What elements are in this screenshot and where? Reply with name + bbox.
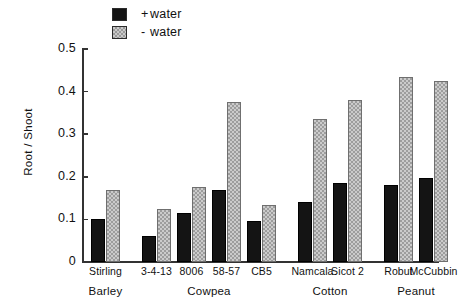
- legend-swatch-minus-water-icon: [112, 26, 127, 39]
- bar-minus-water: [192, 187, 206, 262]
- bar-plus-water: [177, 213, 191, 262]
- legend-label-plus-water: +water: [141, 7, 182, 21]
- legend-text-plus-water: water: [150, 7, 182, 21]
- legend-swatch-plus-water-icon: [112, 8, 127, 21]
- bars-container: [83, 49, 439, 262]
- y-axis-tick-labels: 0.50.40.30.20.10: [38, 0, 76, 305]
- x-axis-group-label: Cowpea: [187, 285, 230, 297]
- bar-plus-water: [333, 183, 347, 262]
- y-axis-tick-label: 0.3: [42, 126, 76, 140]
- y-axis-tick-label: 0.4: [42, 84, 76, 98]
- x-axis-group-labels: BarleyCowpeaCottonPeanut: [0, 285, 448, 301]
- legend-text-minus-water: water: [150, 25, 182, 39]
- x-axis-group-label: Peanut: [397, 285, 435, 297]
- bar-minus-water: [262, 205, 276, 263]
- legend-sign-plus: +: [141, 7, 150, 21]
- bar-plus-water: [91, 219, 105, 262]
- x-axis-group-label: Cotton: [312, 285, 347, 297]
- bar-plus-water: [212, 190, 226, 262]
- legend-entry-plus-water: +water: [112, 6, 262, 22]
- x-axis-category-label: 58-57: [213, 265, 240, 277]
- y-axis-tick-label: 0.2: [42, 169, 76, 183]
- bar-plus-water: [298, 202, 312, 262]
- y-axis-tick-label: 0.5: [42, 41, 76, 55]
- x-axis-category-labels: Stirling3-4-13800658-57CB5NamcalaSicot 2…: [0, 265, 448, 281]
- y-axis-title: Root / Shoot: [22, 87, 34, 197]
- x-axis-category-label: Sicot 2: [331, 265, 364, 277]
- bar-minus-water: [348, 100, 362, 262]
- bar-minus-water: [106, 190, 120, 262]
- x-axis-category-label: Stirling: [89, 265, 122, 277]
- bar-plus-water: [247, 221, 261, 262]
- x-axis-category-label: CB5: [251, 265, 272, 277]
- x-axis-group-label: Barley: [89, 285, 123, 297]
- bar-plus-water: [142, 236, 156, 262]
- bar-minus-water: [313, 119, 327, 262]
- bar-minus-water: [434, 81, 448, 262]
- x-axis-category-label: 8006: [180, 265, 204, 277]
- x-axis-category-label: 3-4-13: [141, 265, 172, 277]
- x-axis-category-label: Namcala: [291, 265, 333, 277]
- bar-minus-water: [399, 77, 413, 262]
- x-axis-category-label: McCubbin: [409, 265, 457, 277]
- bar-plus-water: [384, 185, 398, 262]
- bar-plus-water: [419, 178, 433, 262]
- bar-minus-water: [157, 209, 171, 262]
- legend-entry-minus-water: -water: [112, 24, 262, 40]
- legend-label-minus-water: -water: [141, 25, 182, 39]
- bar-minus-water: [227, 102, 241, 262]
- y-axis-tick-label: 0.1: [42, 211, 76, 225]
- chart-legend: +water -water: [112, 6, 262, 42]
- legend-sign-minus: -: [141, 25, 150, 39]
